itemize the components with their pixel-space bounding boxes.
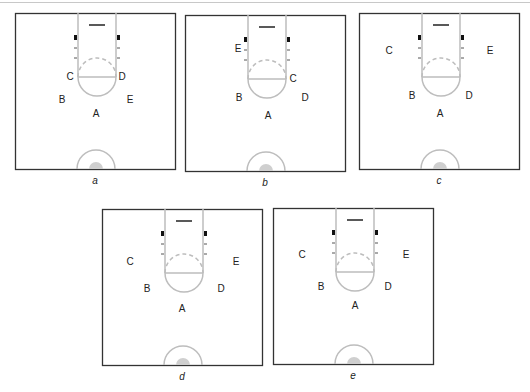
panel-caption: e xyxy=(350,371,356,381)
player-position-e: E xyxy=(403,250,410,260)
free-throw-circle-top xyxy=(336,253,374,272)
player-position-b: B xyxy=(59,95,66,105)
player-position-c: C xyxy=(298,250,305,260)
lane-block-right xyxy=(204,231,207,236)
court-drawing xyxy=(102,209,263,366)
court-panel-a: CDBEAa xyxy=(15,13,176,170)
lane-block-left xyxy=(244,37,247,42)
player-position-e: E xyxy=(127,95,134,105)
court-panel-e: CEBDAe xyxy=(273,208,434,365)
center-circle-fill xyxy=(433,162,447,169)
court-drawing xyxy=(185,15,346,172)
player-position-d: D xyxy=(217,284,224,294)
player-position-b: B xyxy=(144,284,151,294)
free-throw-circle-bottom xyxy=(422,77,460,96)
lane-block-right xyxy=(461,35,464,40)
court-border xyxy=(186,16,346,172)
lane-block-left xyxy=(74,35,77,40)
player-position-c: C xyxy=(126,257,133,267)
free-throw-circle-top xyxy=(78,58,116,77)
panel-caption: d xyxy=(179,372,185,382)
free-throw-circle-bottom xyxy=(78,77,116,96)
player-position-a: A xyxy=(352,301,359,311)
court-border xyxy=(103,210,263,366)
player-position-b: B xyxy=(236,93,243,103)
court-panel-c: CEBDAc xyxy=(359,13,520,170)
panel-caption: b xyxy=(262,178,268,188)
player-position-d: D xyxy=(465,91,472,101)
lane-block-right xyxy=(287,37,290,42)
court-border xyxy=(360,14,520,170)
court-drawing xyxy=(273,208,434,365)
panel-caption: c xyxy=(437,176,442,186)
lane-block-right xyxy=(375,230,378,235)
center-circle-fill xyxy=(176,358,190,365)
player-position-c: C xyxy=(66,72,73,82)
player-position-a: A xyxy=(179,304,186,314)
center-circle-fill xyxy=(259,164,273,171)
player-position-a: A xyxy=(265,111,272,121)
player-position-e: E xyxy=(487,46,494,56)
top-rule xyxy=(0,2,530,3)
free-throw-circle-top xyxy=(422,58,460,77)
player-position-d: D xyxy=(301,93,308,103)
free-throw-circle-top xyxy=(248,60,286,79)
player-position-a: A xyxy=(437,109,444,119)
free-throw-circle-bottom xyxy=(248,79,286,98)
court-border xyxy=(274,209,434,365)
player-position-c: C xyxy=(289,74,296,84)
panel-caption: a xyxy=(92,176,98,186)
lane-block-left xyxy=(332,230,335,235)
free-throw-circle-bottom xyxy=(165,273,203,292)
lane-block-right xyxy=(117,35,120,40)
lane-block-left xyxy=(161,231,164,236)
lane-block-left xyxy=(418,35,421,40)
court-drawing xyxy=(15,13,176,170)
court-panel-b: ECBDAb xyxy=(185,15,346,172)
player-position-b: B xyxy=(318,282,325,292)
court-border xyxy=(16,14,176,170)
player-position-d: D xyxy=(118,72,125,82)
player-position-e: E xyxy=(235,44,242,54)
court-panel-d: CEBDAd xyxy=(102,209,263,366)
court-drawing xyxy=(359,13,520,170)
player-position-c: C xyxy=(385,46,392,56)
player-position-d: D xyxy=(384,282,391,292)
free-throw-circle-top xyxy=(165,254,203,273)
player-position-e: E xyxy=(233,257,240,267)
player-position-b: B xyxy=(409,91,416,101)
player-position-a: A xyxy=(93,109,100,119)
free-throw-circle-bottom xyxy=(336,272,374,291)
center-circle-fill xyxy=(347,357,361,364)
center-circle-fill xyxy=(89,162,103,169)
